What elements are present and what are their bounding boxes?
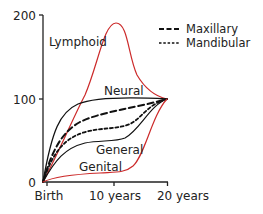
- x-tick-20-years: 20 years: [157, 189, 209, 203]
- x-tick-birth: Birth: [35, 189, 64, 203]
- label-genital: Genital: [79, 160, 122, 174]
- y-axis: 200 100 0: [13, 9, 43, 190]
- x-axis: Birth 10 years 20 years: [35, 182, 209, 203]
- y-tick-100: 100: [13, 93, 36, 107]
- x-tick-10-years: 10 years: [89, 189, 141, 203]
- legend: Maxillary Mandibular: [159, 22, 251, 50]
- label-neural: Neural: [104, 84, 144, 98]
- y-tick-200: 200: [13, 9, 36, 23]
- label-general: General: [96, 143, 143, 157]
- label-lymphoid: Lymphoid: [49, 35, 107, 49]
- y-tick-0: 0: [28, 176, 36, 190]
- growth-curves-chart: 200 100 0 Birth 10 years 20 years Lympho…: [0, 0, 263, 214]
- legend-maxillary: Maxillary: [186, 22, 238, 36]
- legend-mandibular: Mandibular: [186, 36, 251, 50]
